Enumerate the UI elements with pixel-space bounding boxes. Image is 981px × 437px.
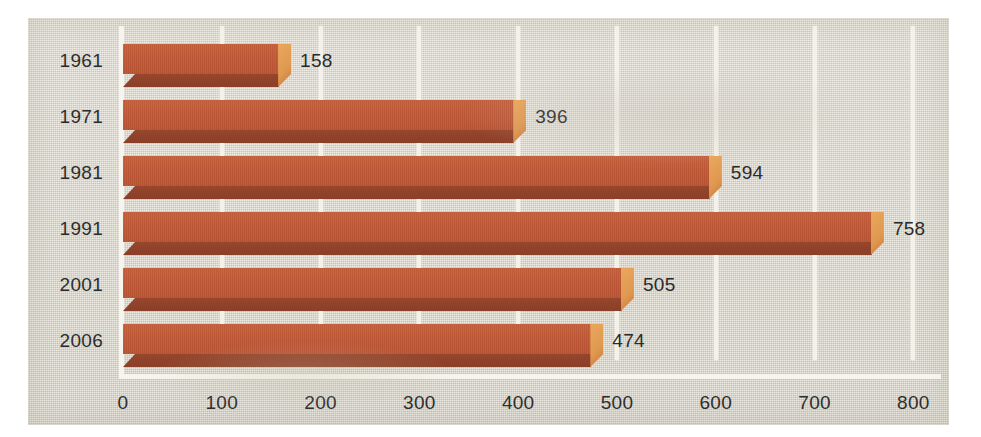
- category-label-1981: 1981: [28, 162, 103, 184]
- bar-front-face: [123, 212, 872, 242]
- bar-value-label-2001: 505: [643, 274, 676, 296]
- bar-shadow-face: [123, 354, 591, 367]
- bar-shadow-face: [123, 298, 622, 311]
- bar-front-face: [123, 324, 591, 354]
- bar-value-label-1981: 594: [731, 162, 764, 184]
- bar-front-face: [123, 100, 514, 130]
- x-tick-label-100: 100: [192, 392, 252, 414]
- bar-shadow-face: [123, 74, 279, 87]
- bar-shadow-face: [123, 186, 710, 199]
- category-label-1971: 1971: [28, 106, 103, 128]
- bar-value-label-1961: 158: [300, 50, 333, 72]
- bar-1991: [123, 212, 872, 256]
- x-tick-label-300: 300: [389, 392, 449, 414]
- gridline-700: [813, 26, 817, 360]
- category-label-1961: 1961: [28, 50, 103, 72]
- bar-end-cap: [621, 268, 634, 311]
- chart-panel: 158396594758505474 196119711981199120012…: [28, 18, 949, 425]
- bar-front-face: [123, 44, 279, 74]
- category-label-2001: 2001: [28, 274, 103, 296]
- x-tick-label-200: 200: [291, 392, 351, 414]
- gridline-800: [911, 26, 915, 360]
- bar-shadow-face: [123, 130, 514, 143]
- bar-1981: [123, 156, 710, 200]
- bar-end-cap: [871, 212, 884, 255]
- x-tick-label-0: 0: [93, 392, 153, 414]
- bar-front-face: [123, 156, 710, 186]
- bar-value-label-2006: 474: [612, 330, 645, 352]
- x-tick-label-500: 500: [587, 392, 647, 414]
- bar-1971: [123, 100, 514, 144]
- bar-end-cap: [278, 44, 291, 87]
- category-label-1991: 1991: [28, 218, 103, 240]
- bar-end-cap: [590, 324, 603, 367]
- bar-2006: [123, 324, 591, 368]
- bar-value-label-1971: 396: [535, 106, 568, 128]
- chart-screenshot: 158396594758505474 196119711981199120012…: [0, 0, 981, 437]
- category-label-2006: 2006: [28, 330, 103, 352]
- x-tick-label-800: 800: [883, 392, 943, 414]
- bar-value-label-1991: 758: [893, 218, 926, 240]
- x-tick-label-600: 600: [686, 392, 746, 414]
- x-tick-label-400: 400: [488, 392, 548, 414]
- bar-shadow-face: [123, 242, 872, 255]
- x-tick-label-700: 700: [785, 392, 845, 414]
- x-axis-line: [119, 374, 941, 379]
- bar-1961: [123, 44, 279, 88]
- plot-area: 158396594758505474 196119711981199120012…: [28, 18, 949, 425]
- bar-front-face: [123, 268, 622, 298]
- bar-2001: [123, 268, 622, 312]
